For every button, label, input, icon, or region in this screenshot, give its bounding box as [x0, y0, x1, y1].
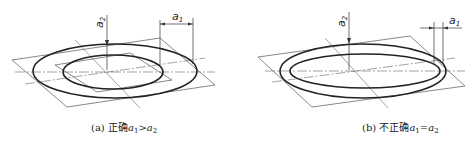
figure-b: a2 a1 (b) 不正确a1=a2 [240, 0, 475, 141]
isometric-ring-incorrect-diagram: a2 a1 [240, 0, 475, 141]
caption-operator: > [138, 122, 146, 133]
figure-a: a2 a1 (a) 正确a1>a2 [0, 0, 240, 141]
outer-ellipse [33, 44, 197, 98]
arrow-icon [429, 27, 434, 30]
caption-text: (a) 正确 [91, 122, 128, 133]
outer-parallelogram [12, 38, 215, 107]
caption-b: (b) 不正确a1=a2 [362, 119, 439, 135]
caption-a: (a) 正确a1>a2 [91, 119, 157, 135]
caption-sub: 2 [153, 127, 157, 135]
caption-sub: 2 [434, 127, 438, 135]
inner-parallelogram [55, 53, 172, 92]
label-a2: a2 [93, 16, 107, 28]
arrow-icon [105, 40, 109, 46]
label-a1: a1 [172, 10, 183, 24]
label-a2: a2 [335, 15, 349, 27]
diagonal-centerline [25, 58, 205, 84]
arrow-icon [188, 23, 193, 26]
label-a1: a1 [449, 14, 460, 28]
caption-operator: = [420, 122, 428, 133]
arrow-icon [160, 23, 165, 26]
arrow-icon [347, 38, 351, 44]
caption-text: (b) 不正确 [362, 122, 409, 133]
arrow-icon [443, 27, 448, 30]
